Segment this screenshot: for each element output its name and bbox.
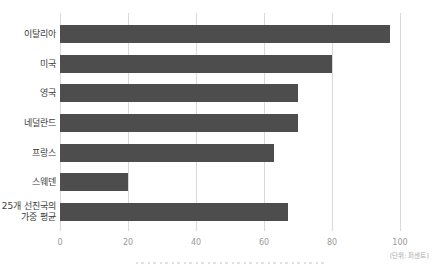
category-label-4: 프랑스 <box>0 147 56 158</box>
bar-0 <box>60 25 390 43</box>
cropped-caption <box>136 262 324 267</box>
gridline-x80 <box>332 13 333 231</box>
bar-1 <box>60 55 332 73</box>
bar-2 <box>60 84 298 102</box>
gridline-x100 <box>400 13 401 231</box>
x-tick-label-100: 100 <box>392 238 407 247</box>
unit-label: (단위: 퍼센트) <box>390 250 429 260</box>
bar-5 <box>60 173 128 191</box>
x-tick-label-20: 20 <box>123 238 133 247</box>
bar-4 <box>60 144 274 162</box>
x-tick-label-80: 80 <box>327 238 337 247</box>
caption-text-sliver <box>136 262 324 264</box>
x-tick-label-0: 0 <box>57 238 62 247</box>
x-tick-label-60: 60 <box>259 238 269 247</box>
category-label-6: 25개 선진국의 가중 평균 <box>0 201 56 223</box>
bar-6 <box>60 203 288 221</box>
category-label-5: 스웨덴 <box>0 177 56 188</box>
plot-area <box>60 13 400 231</box>
category-label-3: 네덜란드 <box>0 118 56 129</box>
category-label-2: 영국 <box>0 88 56 99</box>
category-label-0: 이탈리아 <box>0 29 56 40</box>
x-tick-label-40: 40 <box>191 238 201 247</box>
category-label-1: 미국 <box>0 58 56 69</box>
bar-chart-figure: (단위: 퍼센트) 020406080100이탈리아미국영국네덜란드프랑스스웨덴… <box>0 0 432 267</box>
bar-3 <box>60 114 298 132</box>
